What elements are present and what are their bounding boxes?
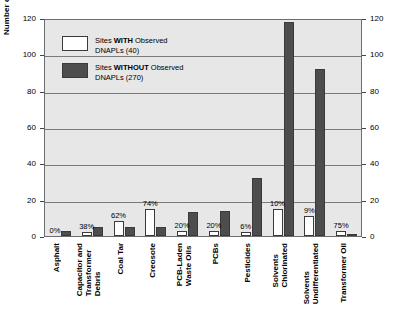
percent-label-0: 0%	[43, 227, 67, 235]
chart-figure: Number of Superfund Sites 02040608010012…	[0, 0, 417, 332]
x-category-label-8: Solvents Undifferentiated	[302, 243, 320, 304]
y-tick-label-left-60: 60	[14, 124, 36, 132]
bar-without-dnapls-3	[156, 227, 166, 236]
y-tick-label-left-80: 80	[14, 88, 36, 96]
y-tick-label-right-100: 100	[370, 51, 392, 59]
percent-label-6: 6%	[234, 223, 258, 231]
y-tick-label-right-20: 20	[370, 197, 392, 205]
y-tick-label-left-20: 20	[14, 197, 36, 205]
x-category-label-7: Solvents Chlorinated	[271, 243, 289, 287]
legend-label-line2-0: DNAPLs (40)	[95, 46, 168, 56]
x-category-label-5: PCBs	[211, 243, 220, 264]
chart-legend: Sites WITH ObservedDNAPLs (40)Sites WITH…	[62, 36, 183, 90]
legend-item-1: Sites WITHOUT ObservedDNAPLs (270)	[62, 63, 183, 82]
y-tick-label-right-60: 60	[370, 124, 392, 132]
bar-with-dnapls-6	[241, 232, 251, 236]
x-category-label-3: Creosote	[148, 243, 157, 278]
bar-without-dnapls-2	[125, 227, 135, 236]
y-tick-label-right-40: 40	[370, 160, 392, 168]
legend-swatch-without	[62, 63, 88, 78]
y-tick-mark-right-120	[362, 19, 366, 20]
bar-with-dnapls-2	[114, 221, 124, 236]
y-tick-mark-right-80	[362, 92, 366, 93]
legend-label-line1-1: Sites WITHOUT Observed	[95, 63, 183, 73]
y-tick-label-right-0: 0	[370, 233, 392, 241]
percent-label-8: 9%	[297, 207, 321, 215]
bar-without-dnapls-9	[347, 234, 357, 236]
y-tick-label-right-80: 80	[370, 88, 392, 96]
percent-label-7: 10%	[266, 200, 290, 208]
bar-with-dnapls-8	[304, 216, 314, 236]
percent-label-9: 75%	[329, 222, 353, 230]
x-category-label-9: Transformer Oil	[339, 243, 348, 303]
x-category-label-6: Pesticides	[243, 243, 252, 283]
legend-label-line1-0: Sites WITH Observed	[95, 36, 168, 46]
percent-label-4: 20%	[170, 222, 194, 230]
percent-label-5: 20%	[202, 222, 226, 230]
bar-with-dnapls-5	[209, 231, 219, 236]
percent-label-1: 38%	[75, 223, 99, 231]
y-axis-title: Number of Superfund Sites	[2, 0, 11, 52]
bar-with-dnapls-9	[336, 231, 346, 236]
y-tick-mark-right-60	[362, 128, 366, 129]
y-tick-label-right-120: 120	[370, 15, 392, 23]
legend-label-1: Sites WITHOUT ObservedDNAPLs (270)	[95, 63, 183, 82]
legend-swatch-with	[62, 36, 88, 51]
y-tick-label-left-40: 40	[14, 160, 36, 168]
y-tick-mark-right-100	[362, 55, 366, 56]
bar-with-dnapls-4	[177, 231, 187, 236]
x-category-label-4: PCB-Laden Waste Oils	[175, 243, 193, 286]
y-tick-mark-right-0	[362, 237, 366, 238]
bar-with-dnapls-1	[82, 232, 92, 236]
y-tick-mark-right-20	[362, 201, 366, 202]
percent-label-3: 74%	[138, 200, 162, 208]
bar-with-dnapls-7	[273, 209, 283, 236]
legend-item-0: Sites WITH ObservedDNAPLs (40)	[62, 36, 183, 55]
y-tick-label-left-0: 0	[14, 233, 36, 241]
x-category-label-0: Asphalt	[52, 243, 61, 272]
y-tick-label-left-100: 100	[14, 51, 36, 59]
y-tick-label-left-120: 120	[14, 15, 36, 23]
y-tick-mark-right-40	[362, 164, 366, 165]
legend-label-0: Sites WITH ObservedDNAPLs (40)	[95, 36, 168, 55]
bar-with-dnapls-3	[145, 209, 155, 236]
x-category-label-1: Capacitor and Transformer Debris	[75, 243, 102, 296]
legend-label-line2-1: DNAPLs (270)	[95, 73, 183, 83]
percent-label-2: 62%	[107, 212, 131, 220]
x-category-label-2: Coal Tar	[116, 243, 125, 274]
y-tick-mark-left-0	[40, 237, 44, 238]
